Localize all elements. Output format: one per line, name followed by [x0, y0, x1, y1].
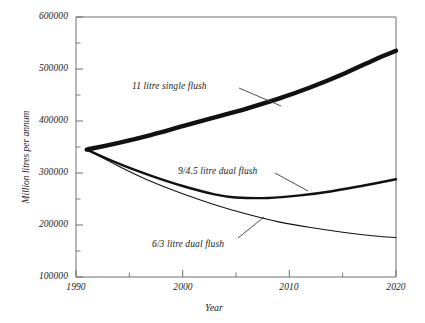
ytick-label-100000: 100000: [6, 272, 68, 282]
xtick-label-2020: 2020: [366, 283, 425, 293]
leader-line-6-3-litre: [238, 217, 264, 238]
annotation-9-4-5-litre-dual-flush: 9/4.5 litre dual flush: [178, 167, 257, 177]
series-line-11-litre-single-flush: [87, 51, 396, 150]
axis-frame: [76, 17, 396, 277]
annotation-6-3-litre-dual-flush: 6/3 litre dual flush: [152, 240, 224, 250]
x-axis-ticks: [76, 270, 396, 277]
annotation-11-litre-single-flush: 11 litre single flush: [132, 82, 207, 92]
y-axis-title-wrapper: Million litres per annum: [15, 87, 33, 227]
xtick-label-1990: 1990: [46, 283, 106, 293]
y-axis-ticks: [76, 17, 83, 277]
y-axis-title: Million litres per annum: [21, 111, 31, 204]
ytick-label-500000: 500000: [6, 64, 68, 74]
xtick-label-2000: 2000: [153, 283, 213, 293]
annotation-leader-lines: [238, 88, 308, 238]
data-series-group: [87, 51, 396, 238]
chart-figure: 600000 500000 400000 300000 200000 10000…: [0, 0, 425, 323]
ytick-label-600000: 600000: [6, 12, 68, 22]
series-line-6-3-litre-dual-flush: [87, 150, 396, 238]
x-axis-title: Year: [205, 303, 223, 313]
xtick-label-2010: 2010: [259, 283, 319, 293]
leader-line-9-4-5-litre: [275, 173, 308, 191]
